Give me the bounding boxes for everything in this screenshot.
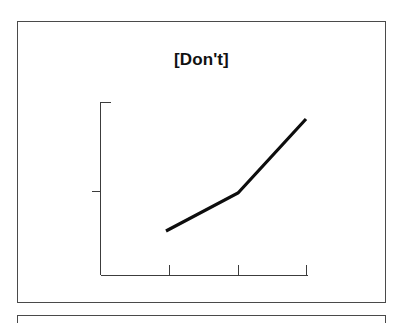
data-series-line: [166, 119, 306, 231]
figure-frame: [Don't]: [17, 21, 386, 303]
line-chart-plot: [18, 22, 387, 304]
next-figure-frame: [17, 315, 386, 323]
